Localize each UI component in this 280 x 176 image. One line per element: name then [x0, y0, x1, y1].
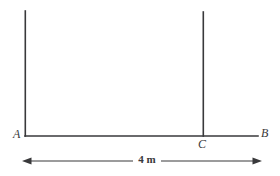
dimension-label: 4 m	[133, 153, 161, 165]
dimension-arrow-left-icon	[22, 158, 32, 165]
dimension-arrow-right-icon	[253, 158, 263, 165]
vertex-label-b: B	[261, 127, 268, 139]
vertex-label-a: A	[13, 128, 20, 140]
geometry-diagram: A C B 4 m	[0, 0, 280, 176]
figure-canvas	[0, 0, 280, 176]
vertex-label-c: C	[198, 138, 206, 150]
